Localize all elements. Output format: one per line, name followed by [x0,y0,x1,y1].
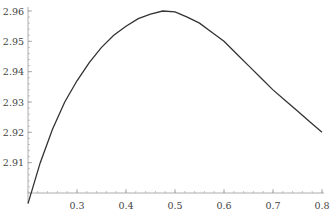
x-tick-label: 0.4 [118,200,133,211]
y-tick-label: 2.95 [3,36,24,47]
y-tick-label: 2.93 [3,97,24,108]
y-tick-label: 2.96 [3,6,24,17]
x-tick-label: 0.8 [314,200,329,211]
x-tick-label: 0.7 [265,200,280,211]
x-tick-label: 0.6 [216,200,231,211]
y-tick-label: 2.94 [3,66,24,77]
axes: 0.30.40.50.60.70.82.912.922.932.942.952.… [3,6,330,212]
line-chart: 0.30.40.50.60.70.82.912.922.932.942.952.… [0,0,332,214]
data-line [28,11,322,204]
y-tick-label: 2.91 [3,157,24,168]
x-tick-label: 0.5 [167,200,182,211]
x-tick-label: 0.3 [69,200,84,211]
y-tick-label: 2.92 [3,127,24,138]
